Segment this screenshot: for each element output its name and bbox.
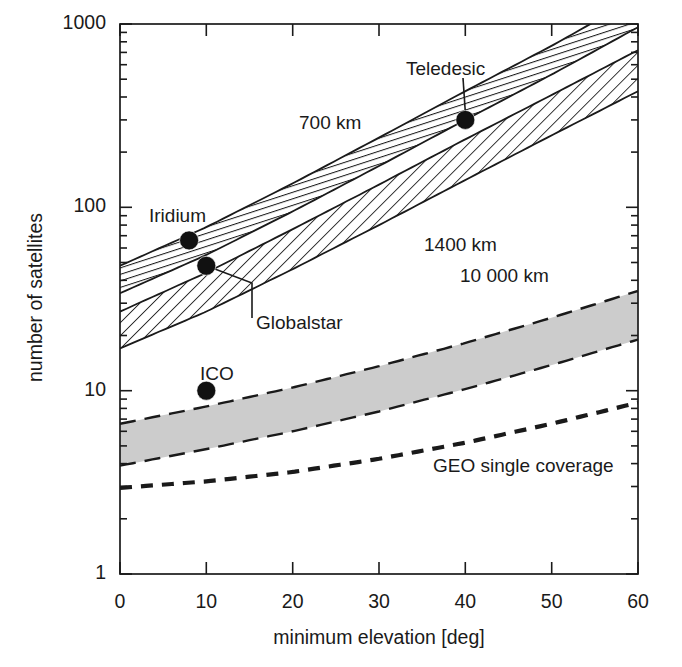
y-tick-label: 100 <box>73 194 106 217</box>
y-tick-label: 1 <box>95 561 106 584</box>
x-tick-label: 50 <box>522 590 582 613</box>
x-tick-label: 40 <box>435 590 495 613</box>
band-10000km <box>120 291 638 466</box>
x-axis-label: minimum elevation [deg] <box>120 626 638 649</box>
annotation-700-km: 700 km <box>299 112 361 134</box>
band-fill-1400-km <box>120 50 638 348</box>
data-layer <box>120 0 638 488</box>
x-tick-label: 30 <box>349 590 409 613</box>
band-700km <box>120 0 638 293</box>
marker-teledesic <box>456 110 475 129</box>
satellite-constellation-chart: number of satellites minimum elevation [… <box>0 0 682 667</box>
x-tick-label: 10 <box>176 590 236 613</box>
annotation-iridium: Iridium <box>149 205 206 227</box>
annotation-ico: ICO <box>200 363 234 385</box>
marker-globalstar <box>197 256 216 275</box>
y-axis-label: number of satellites <box>24 178 47 418</box>
annotation-teledesic: Teledesic <box>406 58 485 80</box>
x-tick-label: 60 <box>608 590 668 613</box>
annotation-globalstar: Globalstar <box>256 312 343 334</box>
band-edge-1400-km-upper <box>120 50 638 311</box>
annotation-1400-km: 1400 km <box>424 234 497 256</box>
annotation-geo-single-coverage: GEO single coverage <box>433 455 614 477</box>
x-tick-label: 0 <box>90 590 150 613</box>
band-fill-700-km <box>120 0 638 293</box>
y-tick-label: 10 <box>84 378 106 401</box>
band-fill-10-000-km <box>120 291 638 466</box>
marker-iridium <box>180 231 199 250</box>
band-1400km <box>120 50 638 348</box>
y-tick-label: 1000 <box>63 11 106 34</box>
annotation-10-000-km: 10 000 km <box>460 265 549 287</box>
x-tick-label: 20 <box>263 590 323 613</box>
